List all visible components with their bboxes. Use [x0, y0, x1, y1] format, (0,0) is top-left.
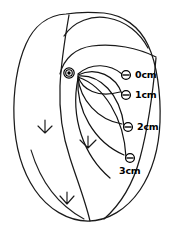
lower-right-border: [104, 58, 156, 219]
scale-marker-3cm[interactable]: [126, 154, 135, 163]
scale-marker-1cm[interactable]: [122, 91, 131, 100]
scale-marker-0cm[interactable]: [122, 71, 131, 80]
vessel-mark-group: [38, 120, 96, 204]
chamber-floor-curve: [31, 150, 84, 219]
distance-path-1cm-lower: [78, 77, 122, 124]
vessel-mark-upper-left: [38, 120, 52, 133]
outer-chamber-outline: [14, 12, 160, 221]
distance-path-0cm-lower: [78, 76, 120, 94]
pacing-site-marker[interactable]: [64, 68, 74, 78]
upper-inner-dome: [64, 17, 148, 48]
cardiac-diagram-figure: 0cm 1cm 2cm 3cm: [0, 0, 176, 229]
distance-path-group: [76, 66, 126, 178]
diagram-canvas: [0, 0, 176, 229]
scale-marker-2cm[interactable]: [124, 123, 133, 132]
scale-label-2cm: 2cm: [137, 122, 159, 132]
scale-label-1cm: 1cm: [135, 90, 157, 100]
distance-path-3cm-lower: [76, 78, 110, 178]
scale-label-0cm: 0cm: [135, 70, 157, 80]
vessel-mark-lower: [60, 192, 74, 204]
scale-label-3cm: 3cm: [119, 166, 141, 176]
